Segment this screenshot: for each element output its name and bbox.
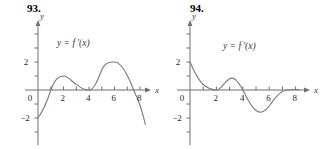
x-axis-label: x: [313, 85, 318, 95]
origin-label: 0: [180, 93, 185, 103]
curve-equation-text: y = f ′(x): [223, 41, 256, 51]
x-axis-ticks: [51, 87, 140, 91]
x-axis-arrowhead: [145, 88, 151, 93]
x-tick-label-4: 4: [86, 93, 91, 103]
y-axis-label: y: [191, 11, 196, 21]
plot-94: x y 2 4 6 8 2 0 −2: [163, 0, 325, 149]
y-tick-label-2: 2: [176, 57, 181, 67]
x-tick-label-6: 6: [266, 93, 271, 103]
y-tick-label-minus-2: −2: [20, 113, 30, 123]
x-tick-label-4: 4: [240, 93, 245, 103]
y-axis-ticks: [35, 34, 39, 132]
figure-container: 93.: [0, 0, 325, 149]
panel-93: 93.: [0, 0, 162, 149]
x-tick-label-6: 6: [112, 93, 117, 103]
origin-label: 0: [28, 93, 33, 103]
curve-equation-text: y = f ′(x): [57, 38, 90, 48]
x-axis-label: x: [154, 85, 159, 95]
curve-equation-label-94: y = f ′(x): [223, 41, 256, 51]
y-axis-label: y: [39, 11, 44, 21]
y-tick-label-2: 2: [24, 57, 29, 67]
x-tick-label-8: 8: [137, 93, 142, 103]
x-tick-label-8: 8: [293, 93, 298, 103]
plot-93: x y 2 4 6 8 2 0 −2: [0, 0, 162, 149]
x-axis-arrowhead: [304, 88, 310, 93]
y-tick-label-minus-2: −2: [172, 113, 182, 123]
x-tick-label-2: 2: [214, 93, 219, 103]
y-axis-ticks: [187, 34, 191, 132]
panel-94: 94.: [163, 0, 325, 149]
derivative-curve: [38, 62, 146, 125]
curve-equation-label-93: y = f ′(x): [57, 38, 90, 48]
x-tick-label-2: 2: [61, 93, 66, 103]
